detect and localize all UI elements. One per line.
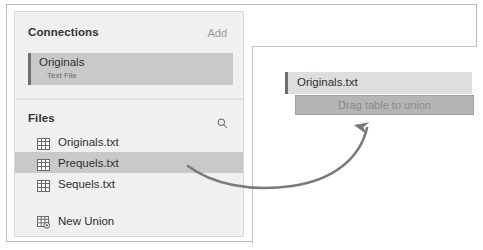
table-card-accent-bar: [285, 72, 288, 94]
file-list-item-originals[interactable]: Originals.txt: [15, 131, 243, 152]
union-drop-zone[interactable]: Drag table to union: [295, 95, 474, 115]
left-sidebar: Connections Add Originals Text File File…: [14, 11, 244, 237]
table-icon: [37, 178, 50, 190]
connections-section-header: Connections Add: [15, 20, 243, 48]
application-frame: Connections Add Originals Text File File…: [6, 4, 477, 242]
new-union-item[interactable]: New Union: [15, 210, 243, 231]
add-connection-button[interactable]: Add: [207, 27, 227, 39]
connection-card-originals[interactable]: Originals Text File: [28, 53, 233, 85]
connection-accent-bar: [28, 53, 31, 85]
connection-type: Text File: [47, 71, 77, 80]
connection-name: Originals: [39, 56, 84, 68]
canvas-table-card[interactable]: Originals.txt: [285, 72, 472, 94]
canvas-panel: Originals.txt Drag table to union: [252, 46, 477, 244]
section-divider: [16, 98, 244, 100]
connections-title: Connections: [28, 26, 99, 38]
union-drop-zone-label: Drag table to union: [338, 99, 431, 111]
file-list-item-label: Sequels.txt: [58, 178, 115, 190]
new-union-icon: [37, 215, 50, 227]
file-list-item-label: Prequels.txt: [58, 157, 119, 169]
files-section-header: Files: [15, 106, 243, 134]
table-icon: [37, 157, 50, 169]
file-list-item-prequels[interactable]: Prequels.txt: [15, 152, 243, 173]
new-union-label: New Union: [58, 215, 114, 227]
canvas-table-card-label: Originals.txt: [297, 76, 358, 88]
file-list: Originals.txt Prequels.txt: [15, 131, 243, 194]
file-list-item-label: Originals.txt: [58, 136, 119, 148]
files-title: Files: [28, 112, 55, 124]
file-list-item-sequels[interactable]: Sequels.txt: [15, 173, 243, 194]
search-icon[interactable]: [217, 115, 228, 126]
table-icon: [37, 136, 50, 148]
